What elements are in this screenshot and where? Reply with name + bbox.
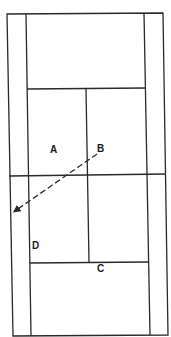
label-c: C (97, 263, 104, 274)
label-b: B (97, 143, 104, 154)
label-d: D (32, 240, 39, 251)
label-a: A (50, 144, 57, 155)
top-service-line (27, 88, 145, 89)
tennis-court-diagram: A B C D (0, 0, 171, 337)
dashed-arrow (15, 154, 97, 211)
bottom-service-line (30, 262, 148, 263)
left-singles-sideline (26, 14, 31, 336)
